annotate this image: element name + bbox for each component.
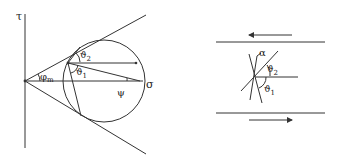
phi-m-label: φm <box>40 71 54 84</box>
psi-label: ψ <box>117 87 125 98</box>
alpha-label: α <box>259 47 266 58</box>
origin-point <box>24 80 27 83</box>
sigma-axis-label: σ <box>146 78 154 91</box>
tau-axis-label: τ <box>16 10 22 23</box>
theta1-label-right: ϑ1 <box>264 84 275 97</box>
pole-point <box>67 62 70 65</box>
theta2-label-right: ϑ2 <box>267 64 278 77</box>
mohr-diagram: τ σ φm ϑ2 ϑ1 ψ <box>16 10 154 154</box>
theta2-label: ϑ2 <box>80 50 91 63</box>
shear-zone-diagram: α ϑ2 ϑ1 <box>216 35 325 120</box>
figure: τ σ φm ϑ2 ϑ1 ψ <box>0 0 338 161</box>
theta1-label: ϑ1 <box>76 67 87 80</box>
chord-end-point <box>135 62 138 65</box>
